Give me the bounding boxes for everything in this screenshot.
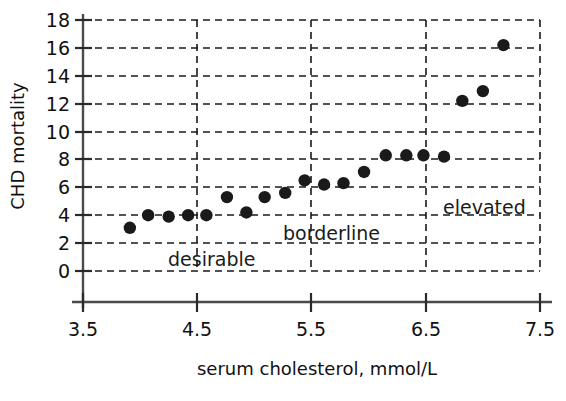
data-point	[456, 95, 468, 107]
data-point	[124, 222, 136, 234]
data-point	[358, 166, 370, 178]
data-point	[298, 174, 310, 186]
data-point	[142, 209, 154, 221]
data-point	[279, 187, 291, 199]
ytick-label-14: 14	[46, 65, 70, 87]
data-point	[477, 85, 489, 97]
data-point	[162, 210, 174, 222]
x-axis-title: serum cholesterol, mmol/L	[197, 358, 437, 379]
ytick-label-4: 4	[58, 204, 70, 226]
y-axis-title: CHD mortality	[7, 82, 28, 210]
ytick-label-0: 0	[58, 260, 70, 282]
ytick-label-10: 10	[46, 121, 70, 143]
xtick-label-6-5: 6.5	[411, 318, 441, 340]
zone-label-desirable: desirable	[168, 248, 255, 270]
data-point	[337, 177, 349, 189]
ytick-label-6: 6	[58, 176, 70, 198]
ytick-label-8: 8	[58, 148, 70, 170]
scatter-plot-svg: 18 16 14 12 10 8 6 4 2 0 3.5 4.5 5.5 6.5…	[0, 0, 566, 401]
data-point	[497, 39, 509, 51]
xtick-label-4-5: 4.5	[182, 318, 212, 340]
data-point	[240, 206, 252, 218]
xtick-label-3-5: 3.5	[68, 318, 98, 340]
zone-label-borderline: borderline	[283, 222, 380, 244]
data-point	[380, 149, 392, 161]
data-point	[258, 191, 270, 203]
data-point	[417, 149, 429, 161]
xtick-label-7-5: 7.5	[525, 318, 555, 340]
data-point	[200, 209, 212, 221]
xtick-label-5-5: 5.5	[296, 318, 326, 340]
data-point	[221, 191, 233, 203]
data-point	[182, 209, 194, 221]
ytick-label-16: 16	[46, 37, 70, 59]
chart-figure: 18 16 14 12 10 8 6 4 2 0 3.5 4.5 5.5 6.5…	[0, 0, 566, 401]
ytick-label-12: 12	[46, 93, 70, 115]
data-point	[318, 178, 330, 190]
data-point	[400, 149, 412, 161]
ytick-label-18: 18	[46, 9, 70, 31]
ytick-label-2: 2	[58, 232, 70, 254]
data-point	[438, 150, 450, 162]
zone-label-elevated: elevated	[443, 196, 526, 218]
